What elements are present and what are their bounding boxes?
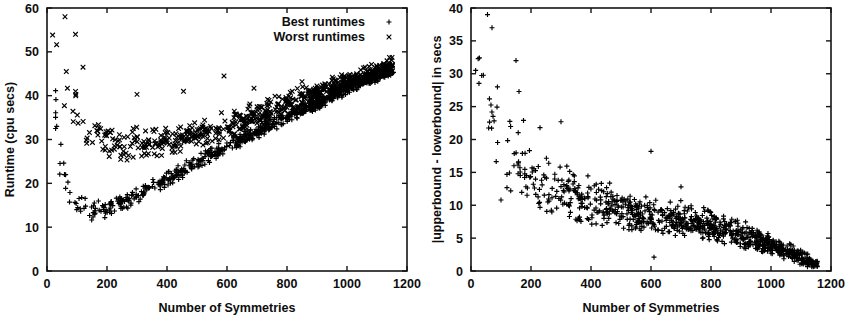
data-point-plus — [652, 255, 657, 260]
data-point-cross — [300, 85, 305, 90]
data-point-plus — [508, 188, 513, 193]
data-point-plus — [516, 130, 521, 135]
data-point-plus — [487, 96, 492, 101]
data-point-plus — [588, 202, 593, 207]
chart-panel-right: 0200400600800100012000510152025303540Num… — [427, 0, 854, 318]
data-point-plus — [62, 172, 67, 177]
data-point-plus — [567, 169, 572, 174]
data-point-plus — [519, 190, 524, 195]
data-point-cross — [131, 155, 136, 160]
data-point-plus — [576, 183, 581, 188]
data-point-plus — [507, 119, 512, 124]
data-point-plus — [511, 163, 516, 168]
data-point-cross — [176, 126, 181, 131]
data-point-cross — [87, 130, 92, 135]
data-point-plus — [67, 200, 72, 205]
data-point-plus — [679, 184, 684, 189]
data-point-cross — [71, 109, 76, 114]
chart-panel-left: 0200400600800100012000102030405060Number… — [0, 0, 427, 318]
data-point-plus — [621, 226, 626, 231]
data-point-plus — [600, 223, 605, 228]
data-point-cross — [62, 103, 67, 108]
data-point-plus — [488, 103, 493, 108]
data-point-cross — [125, 134, 130, 139]
data-point-plus — [604, 194, 609, 199]
data-point-cross — [90, 140, 95, 145]
data-point-cross — [117, 132, 122, 137]
data-point-cross — [369, 62, 374, 67]
data-point-cross — [167, 136, 172, 141]
data-point-plus — [776, 239, 781, 244]
data-point-plus — [564, 164, 569, 169]
data-point-plus — [660, 231, 665, 236]
data-point-cross — [178, 149, 183, 154]
y-tick-label: 25 — [449, 100, 463, 114]
data-point-cross — [152, 129, 157, 134]
data-point-plus — [485, 12, 490, 17]
data-point-plus — [227, 143, 232, 148]
data-point-plus — [295, 116, 300, 121]
data-point-plus — [628, 217, 633, 222]
legend-label-1: Best runtimes — [282, 15, 365, 29]
data-point-cross — [173, 150, 178, 155]
data-point-plus — [707, 237, 712, 242]
data-point-cross — [73, 32, 78, 37]
data-point-cross — [146, 137, 151, 142]
data-point-plus — [79, 195, 84, 200]
data-point-plus — [65, 180, 70, 185]
data-point-plus — [704, 216, 709, 221]
data-point-plus — [614, 220, 619, 225]
data-point-plus — [525, 193, 530, 198]
data-point-plus — [67, 190, 72, 195]
data-point-plus — [721, 214, 726, 219]
data-point-plus — [598, 201, 603, 206]
data-point-plus — [604, 185, 609, 190]
data-point-plus — [523, 151, 528, 156]
data-point-cross — [159, 153, 164, 158]
data-point-plus — [150, 177, 155, 182]
data-point-cross — [65, 86, 70, 91]
data-point-plus — [607, 181, 612, 186]
data-point-plus — [701, 205, 706, 210]
data-point-plus — [112, 209, 117, 214]
data-point-plus — [473, 68, 478, 73]
data-point-cross — [295, 86, 300, 91]
data-point-plus — [508, 124, 513, 129]
data-point-plus — [700, 236, 705, 241]
data-point-cross — [223, 119, 228, 124]
data-point-cross — [107, 154, 112, 159]
series-1-points — [473, 12, 820, 269]
data-point-plus — [487, 120, 492, 125]
data-point-plus — [532, 186, 537, 191]
data-point-plus — [490, 25, 495, 30]
data-point-plus — [554, 189, 559, 194]
data-point-plus — [521, 118, 526, 123]
y-tick-label: 5 — [456, 232, 463, 246]
y-tick-label: 0 — [32, 265, 39, 279]
data-point-plus — [517, 89, 522, 94]
data-point-plus — [567, 214, 572, 219]
data-point-cross — [273, 94, 278, 99]
data-point-cross — [93, 123, 98, 128]
x-tick-label: 600 — [641, 277, 662, 291]
data-point-plus — [546, 192, 551, 197]
legend-label-2: Worst runtimes — [274, 30, 365, 44]
data-point-plus — [682, 208, 687, 213]
x-axis-title: Number of Symmetries — [159, 301, 296, 315]
x-tick-label: 800 — [277, 277, 298, 291]
data-point-plus — [53, 115, 58, 120]
data-point-plus — [594, 221, 599, 226]
data-point-plus — [387, 20, 392, 25]
data-point-cross — [163, 126, 168, 131]
data-point-cross — [76, 121, 81, 126]
plot-frame — [47, 8, 407, 271]
data-point-plus — [495, 140, 500, 145]
data-point-cross — [71, 119, 76, 124]
data-point-plus — [514, 58, 519, 63]
data-point-plus — [585, 191, 590, 196]
x-tick-label: 800 — [701, 277, 722, 291]
data-point-plus — [134, 186, 139, 191]
y-tick-label: 30 — [449, 67, 463, 81]
data-point-cross — [135, 92, 140, 97]
data-point-plus — [129, 193, 134, 198]
